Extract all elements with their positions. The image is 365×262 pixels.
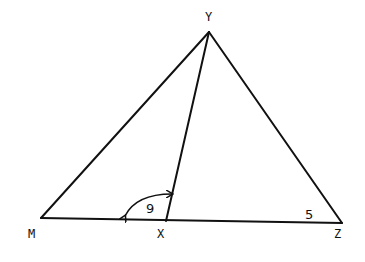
segment-MY xyxy=(41,32,209,218)
segment-YZ xyxy=(209,32,342,223)
angle-label-MXY: 9 xyxy=(146,201,154,216)
vertex-label-M: M xyxy=(28,227,35,241)
vertex-label-Y: Y xyxy=(205,10,213,24)
vertex-label-Z: Z xyxy=(334,227,341,241)
segment-MZ xyxy=(41,218,342,223)
vertex-label-X: X xyxy=(157,227,165,241)
angle-label-Z: 5 xyxy=(305,207,313,222)
triangle-diagram: 9 5 Y M X Z xyxy=(0,0,365,262)
segment-XY xyxy=(166,32,209,221)
